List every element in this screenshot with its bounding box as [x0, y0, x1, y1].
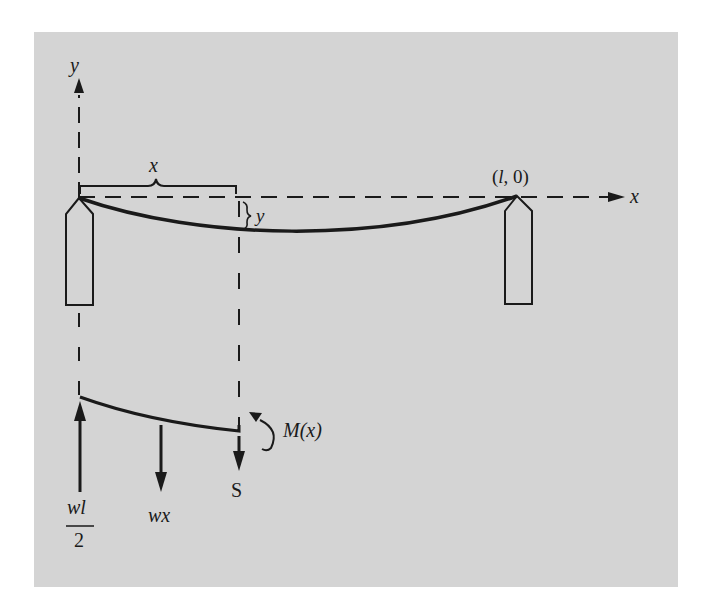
reaction-denominator: 2 [74, 529, 84, 551]
right-support [505, 196, 532, 304]
y-axis [74, 78, 84, 198]
deflection-brace [243, 202, 251, 229]
left-support [66, 198, 93, 305]
beam-diagram: y x x y (l, 0) wl 2 wx S [0, 0, 709, 613]
x-axis-label: x [629, 185, 639, 207]
end-point-label: (l, 0) [492, 166, 529, 188]
x-axis [79, 192, 625, 202]
deflection-label: y [254, 205, 265, 226]
distributed-load-label: wx [148, 504, 170, 526]
moment-label: M(x) [282, 419, 322, 442]
y-axis-label: y [68, 54, 79, 77]
moment-arrow [249, 412, 274, 450]
shear-label: S [231, 479, 242, 501]
x-span-label: x [148, 154, 158, 176]
distributed-load-arrow [155, 425, 167, 492]
x-axis-arrow-icon [608, 192, 625, 202]
reaction-numerator: wl [67, 496, 86, 518]
x-span-brace [80, 179, 236, 194]
y-axis-arrow-icon [74, 78, 84, 93]
deflected-beam [79, 196, 517, 231]
shear-force-arrow [233, 436, 245, 471]
reaction-force-arrow [74, 401, 86, 492]
